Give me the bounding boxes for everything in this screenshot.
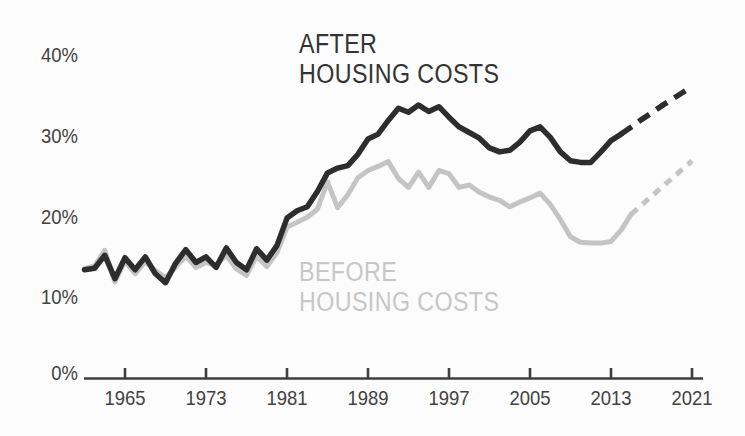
- before-housing-costs-line-projected: [631, 161, 692, 214]
- x-axis: [84, 368, 703, 379]
- after-housing-costs-line-projected: [621, 87, 692, 135]
- before-housing-costs-label-line2: HOUSING COSTS: [299, 287, 499, 317]
- y-tick-label-20: 20%: [15, 206, 78, 228]
- before-housing-costs-label-line1: BEFORE: [299, 257, 499, 287]
- x-tick-label-1981: 1981: [256, 387, 318, 409]
- x-tick-label-2013: 2013: [580, 387, 642, 409]
- x-tick-label-1965: 1965: [94, 387, 156, 409]
- x-tick-label-1997: 1997: [418, 387, 480, 409]
- y-tick-label-0: 0%: [15, 362, 78, 384]
- y-tick-label-10: 10%: [15, 286, 78, 308]
- after-housing-costs-label: AFTER HOUSING COSTS: [299, 29, 499, 89]
- after-housing-costs-label-line2: HOUSING COSTS: [299, 59, 499, 89]
- y-tick-label-30: 30%: [15, 125, 78, 147]
- y-tick-label-40: 40%: [15, 44, 78, 66]
- x-tick-label-2021: 2021: [661, 387, 723, 409]
- chart-canvas: 40% 30% 20% 10% 0% 1965 1973 1981 1989 1…: [0, 0, 745, 436]
- after-housing-costs-label-line1: AFTER: [299, 29, 499, 59]
- x-tick-label-1989: 1989: [337, 387, 399, 409]
- x-tick-label-1973: 1973: [175, 387, 237, 409]
- x-axis-ticks: [125, 368, 692, 379]
- before-housing-costs-label: BEFORE HOUSING COSTS: [299, 257, 499, 317]
- x-tick-label-2005: 2005: [499, 387, 561, 409]
